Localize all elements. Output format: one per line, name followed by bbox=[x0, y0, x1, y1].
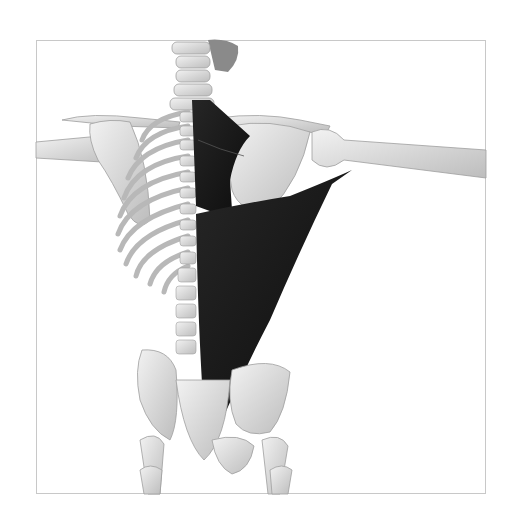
anatomy-illustration bbox=[0, 0, 521, 514]
right-shoulder bbox=[218, 115, 486, 210]
skull-base bbox=[208, 40, 238, 72]
vertebral-column bbox=[176, 112, 196, 354]
cervical-spine bbox=[170, 42, 214, 110]
